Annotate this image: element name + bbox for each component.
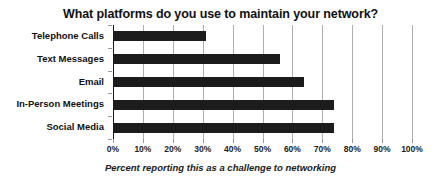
x-axis-tick-label: 50% [254, 144, 271, 154]
x-axis-tick [352, 139, 353, 143]
category-tick [108, 71, 112, 72]
x-axis-tick [382, 139, 383, 143]
x-axis-tick [292, 139, 293, 143]
x-axis-tick [412, 139, 413, 143]
bar-row [113, 116, 412, 139]
category-tick [108, 25, 112, 26]
x-axis-tick [113, 139, 114, 143]
x-axis-tick-label: 80% [344, 144, 361, 154]
x-axis-tick-label: 100% [401, 144, 423, 154]
category-tick [108, 116, 112, 117]
category-label: Social Media [0, 116, 108, 139]
x-axis-tick-label: 20% [164, 144, 181, 154]
x-axis-tick [263, 139, 264, 143]
bar [113, 77, 304, 87]
x-axis-tick-label: 0% [107, 144, 119, 154]
category-label: Text Messages [0, 48, 108, 71]
x-axis-tick [233, 139, 234, 143]
category-axis: Telephone CallsText MessagesEmailIn-Pers… [0, 25, 108, 139]
x-axis-tick-label: 70% [314, 144, 331, 154]
x-axis-tick-label: 30% [194, 144, 211, 154]
bar-row [113, 25, 412, 48]
bar-row [113, 71, 412, 94]
x-axis-tick-label: 40% [224, 144, 241, 154]
category-label: Telephone Calls [0, 25, 108, 48]
bar-chart: What platforms do you use to maintain yo… [0, 0, 441, 185]
bar [113, 31, 206, 41]
bar-series [113, 25, 412, 139]
category-label: Email [0, 71, 108, 94]
category-tick [108, 139, 112, 140]
gridline [412, 25, 413, 139]
x-axis-tick [173, 139, 174, 143]
x-axis-tick [322, 139, 323, 143]
x-axis-tick-label: 60% [284, 144, 301, 154]
category-tick [108, 48, 112, 49]
x-axis-caption: Percent reporting this as a challenge to… [0, 162, 441, 173]
x-axis-tick [203, 139, 204, 143]
x-axis-tick-labels: 0%10%20%30%40%50%60%70%80%90%100% [0, 144, 441, 157]
category-tick [108, 93, 112, 94]
x-axis-tick-label: 90% [374, 144, 391, 154]
chart-title: What platforms do you use to maintain yo… [0, 7, 441, 21]
x-axis-tick-label: 10% [134, 144, 151, 154]
bar [113, 123, 334, 133]
x-axis-ticks [113, 139, 412, 143]
bar-row [113, 93, 412, 116]
plot-area [113, 25, 412, 139]
bar [113, 54, 280, 64]
bar-row [113, 48, 412, 71]
bar [113, 100, 334, 110]
x-axis-tick [143, 139, 144, 143]
category-label: In-Person Meetings [0, 93, 108, 116]
